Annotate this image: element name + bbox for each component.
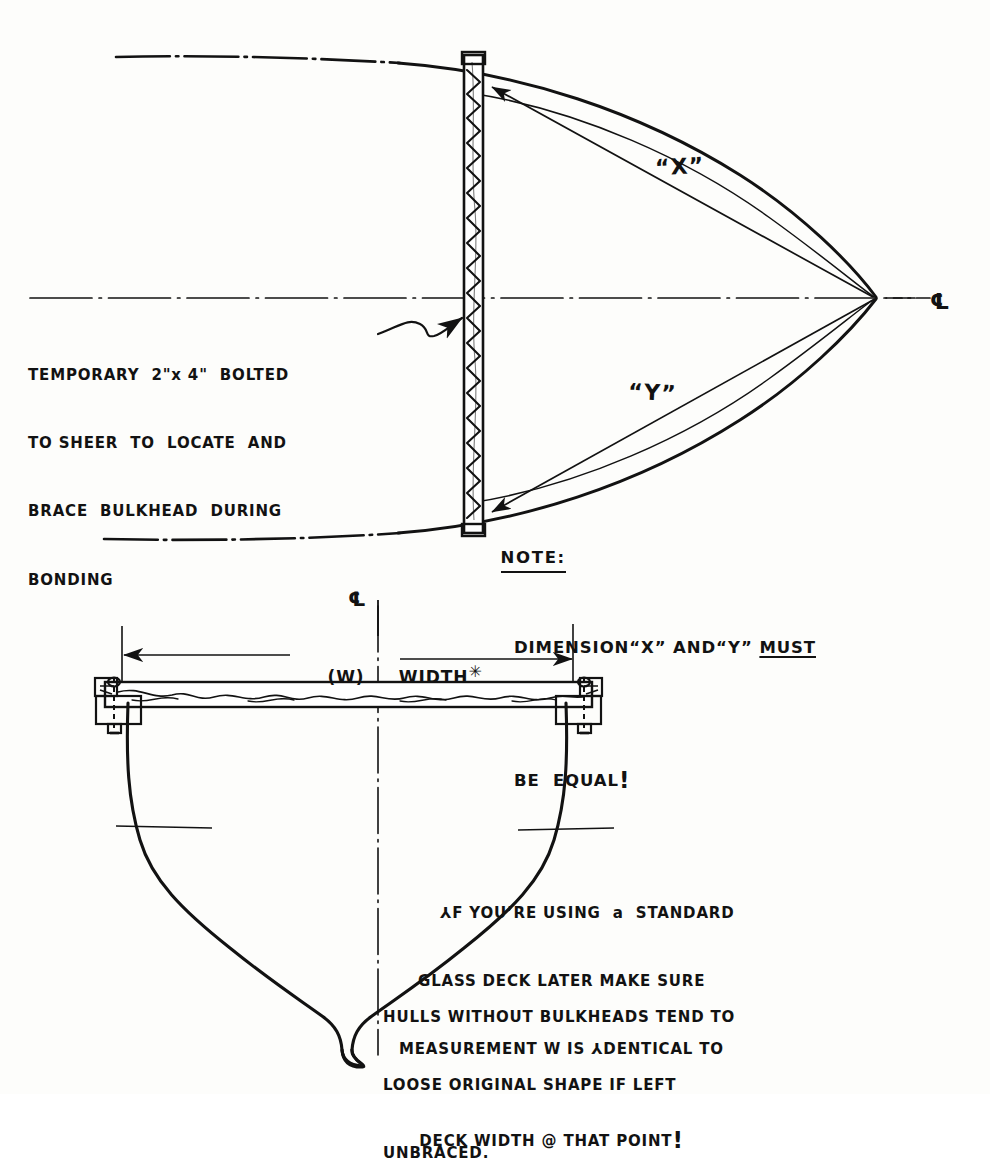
section-note-2-line-3: UNBRACED. — [383, 1142, 735, 1162]
plan-sheer-upper-dashed — [116, 56, 400, 63]
waterline-tick-left — [116, 826, 212, 828]
dimension-line-y — [492, 300, 873, 512]
hull-section-left — [127, 703, 361, 1066]
dimension-line-x — [492, 87, 873, 297]
note-block: NOTE: DIMENSION“X” AND“Y” MUST BE EQUAL! — [474, 520, 816, 868]
plan-inner-fair-upper — [470, 93, 874, 297]
callout-line-2: TO SHEER TO LOCATE AND — [28, 432, 289, 455]
width-label-paren: (W) — [327, 667, 364, 687]
plan-centerline-symbol: ℄ — [930, 285, 951, 318]
note-line-2-text: BE EQUAL — [514, 771, 619, 790]
keel-bottom — [342, 1050, 364, 1067]
section-note-2-line-1: HULLS WITHOUT BULKHEADS TEND TO — [383, 1006, 735, 1029]
note-must-underlined: MUST — [759, 638, 816, 657]
section-note-paragraph-2: HULLS WITHOUT BULKHEADS TEND TO LOOSE OR… — [383, 960, 735, 1162]
callout-line-3: BRACE BULKHEAD DURING — [28, 500, 289, 523]
section-note-2-line-2: LOOSE ORIGINAL SHAPE IF LEFT — [383, 1074, 735, 1097]
width-dimension-label: (W) WIDTH✳ — [300, 634, 483, 716]
width-label-word: WIDTH — [399, 667, 469, 687]
bulkhead-plan — [462, 52, 485, 536]
section-note-1-line-1: ⅄F YOU’RE USING a STANDARD — [440, 902, 734, 925]
plan-callout-text: TEMPORARY 2"x 4" BOLTED TO SHEER TO LOCA… — [28, 318, 289, 637]
note-exclamation: ! — [619, 767, 630, 793]
dimension-label-y: “Y” — [627, 375, 678, 411]
width-label-gap — [365, 667, 399, 687]
note-line-2: BE EQUAL! — [474, 743, 816, 818]
note-line-1-pre: DIMENSION“X” AND“Y” — [514, 638, 759, 657]
width-label-asterisk: ✳ — [469, 662, 483, 681]
dimension-label-x: “X” — [654, 149, 705, 185]
callout-line-1: TEMPORARY 2"x 4" BOLTED — [28, 364, 289, 387]
section-centerline-symbol: ℄ — [348, 584, 367, 614]
callout-line-4: BONDING — [28, 569, 289, 592]
note-line-1: DIMENSION“X” AND“Y” MUST — [474, 610, 816, 685]
callout-leader-squiggle — [378, 318, 462, 336]
note-heading: NOTE: — [501, 545, 566, 573]
